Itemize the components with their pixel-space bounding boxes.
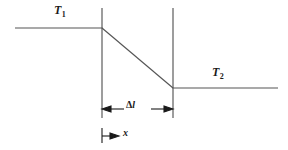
delta-l-right-arrowhead	[164, 106, 173, 112]
delta-l-left-arrowhead	[102, 106, 111, 112]
delta-l-dimension-label: Δl	[126, 100, 135, 110]
gradient-diagonal-line	[102, 28, 173, 88]
figure-canvas	[0, 0, 288, 150]
temperature-t1-label: T1	[54, 4, 65, 16]
thermal-gradient-figure: T1 T2 Δl x	[0, 0, 288, 150]
x-arrowhead	[110, 133, 119, 139]
temperature-t2-label: T2	[212, 66, 223, 78]
x-axis-label: x	[123, 128, 128, 138]
